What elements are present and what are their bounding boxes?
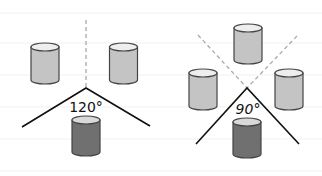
cylinder-dark-bottom <box>72 116 100 156</box>
cylinder-body <box>234 28 262 64</box>
cylinder-light-right <box>275 69 303 110</box>
cylinder-light-left <box>189 69 217 110</box>
cylinder-body <box>275 73 303 110</box>
diagram-120-degrees: 120° <box>22 20 150 156</box>
cylinder-top <box>275 69 303 77</box>
background-rules <box>0 13 322 171</box>
cylinder-body <box>233 122 261 158</box>
cylinder-body <box>110 47 138 84</box>
angle-label-90: 90° <box>236 101 261 117</box>
cylinder-top <box>233 118 261 126</box>
cylinder-top <box>234 24 262 32</box>
cylinder-light-right <box>110 43 138 84</box>
cylinder-dark-bottom <box>233 118 261 158</box>
angle-label-120: 120° <box>69 99 103 115</box>
cylinder-body <box>31 47 59 84</box>
cylinder-light-top <box>234 24 262 64</box>
cylinder-body <box>72 120 100 156</box>
cylinder-angle-diagram: 120° 90° <box>0 0 322 176</box>
cylinder-top <box>31 43 59 51</box>
cylinder-top <box>72 116 100 124</box>
cylinder-top <box>110 43 138 51</box>
cylinder-light-left <box>31 43 59 84</box>
diagram-90-degrees: 90° <box>189 24 303 158</box>
cylinder-top <box>189 69 217 77</box>
cylinder-body <box>189 73 217 110</box>
